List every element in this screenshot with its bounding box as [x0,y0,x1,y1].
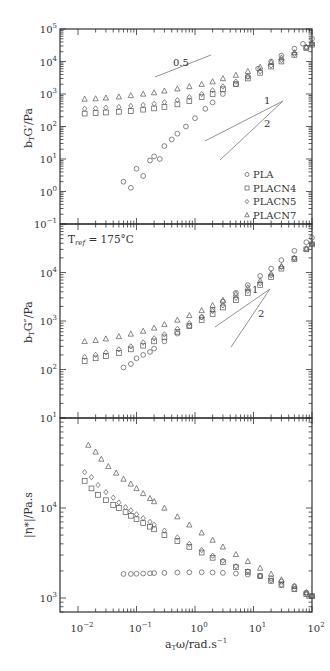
triangle-marker [93,337,98,342]
diamond-marker [279,582,283,587]
diamond-marker [89,475,93,480]
legend-item-pla: PLA [245,169,274,180]
triangle-marker [151,325,156,330]
circle-marker [128,185,133,190]
diamond-marker [129,508,133,513]
triangle-marker [245,559,250,564]
triangle-marker [141,328,146,333]
diamond-marker [175,535,179,540]
triangle-marker [106,464,111,469]
diamond-marker [134,512,138,517]
square-marker [104,354,109,359]
triangle-marker [86,442,91,447]
tref-annotation: Tref = 175°C [68,233,134,247]
triangle-marker [175,86,180,91]
circle-marker [193,116,198,121]
tick-label: 101 [40,152,57,165]
triangle-marker [116,334,121,339]
slope-label-1-mid: 1 [252,284,258,295]
circle-marker [152,346,157,351]
triangle-marker [162,322,167,327]
triangle-marker [114,470,119,475]
circle-marker [233,571,238,576]
circle-marker [152,154,157,159]
circle-marker [169,137,174,142]
slope-label-0.5: 0.5 [173,57,189,68]
triangle-marker [147,495,152,500]
series-placn4 [82,42,314,116]
tick-label: 102 [40,363,57,376]
diamond-marker [141,340,145,345]
panel-loss-modulus: 101102103104 [40,224,315,424]
diamond-marker [117,347,121,352]
diamond-marker [104,105,108,110]
diamond-marker [117,500,121,505]
circle-marker [128,572,133,577]
square-marker [245,186,249,190]
tick-label: 105 [40,22,57,35]
circle-marker [134,356,139,361]
triangle-marker [128,331,133,336]
circle-marker [221,92,226,97]
circle-marker [199,570,204,575]
triangle-marker [233,72,238,77]
panel-complex-viscosity: 10310410−210−1100101102 [40,418,325,634]
diamond-marker [104,350,108,355]
triangle-marker [175,317,180,322]
diamond-marker [279,264,283,269]
triangle-marker [93,96,98,101]
slope-label-1-top: 1 [264,95,270,106]
top-ylabel: bTG′/Pa [22,107,36,148]
square-marker [134,517,139,522]
triangle-marker [175,514,180,519]
series-pla [121,36,314,190]
circle-marker [134,166,139,171]
series-placn7 [82,41,315,102]
triangle-marker [128,481,133,486]
diamond-marker [141,102,145,107]
triangle-marker [82,339,87,344]
legend-label: PLACN5 [253,196,296,207]
diamond-marker [83,106,87,111]
triangle-marker [187,522,192,527]
legend-label: PLACN4 [253,183,296,194]
diamond-marker [162,100,166,105]
plot-frame [60,418,312,612]
legend-item-placn7: PLACN7 [245,210,297,221]
triangle-marker [99,456,104,461]
diamond-marker [96,482,100,487]
triangle-marker [210,302,215,307]
legend-item-placn5: PLACN5 [245,196,296,207]
series-placn5 [83,41,315,111]
triangle-marker [141,91,146,96]
circle-marker [184,124,189,129]
triangle-marker [116,94,121,99]
circle-marker [148,158,153,163]
tick-label: 103 [40,87,57,100]
circle-marker [162,571,167,576]
circle-marker [292,248,297,253]
mid-ylabel: bTG″/Pa [22,301,36,343]
triangle-marker [187,84,192,89]
triangle-marker [82,96,87,101]
diamond-marker [292,587,296,592]
diamond-marker [141,516,145,521]
square-marker [128,513,133,518]
diamond-marker [210,308,214,313]
circle-marker [162,144,167,149]
diamond-marker [148,519,152,524]
triangle-marker [128,93,133,98]
triangle-marker [151,90,156,95]
square-marker [116,506,121,511]
diamond-marker [162,332,166,337]
circle-marker [304,240,309,245]
square-marker [175,539,180,544]
diamond-marker [175,326,179,331]
tick-label: 10−1 [34,217,57,230]
circle-marker [141,571,146,576]
slope-label-2-top: 2 [264,118,270,129]
tick-label: 103 [40,591,57,604]
circle-marker [187,570,192,575]
triangle-marker [162,505,167,510]
circle-marker [121,365,126,370]
